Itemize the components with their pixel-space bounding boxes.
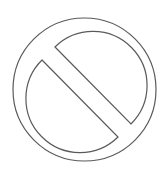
prohibited-icon (0, 0, 168, 170)
outer-ring (13, 18, 156, 161)
inner-segment-lower (26, 60, 118, 153)
inner-segment-upper (55, 31, 147, 124)
prohibited-symbol-svg (0, 0, 168, 170)
